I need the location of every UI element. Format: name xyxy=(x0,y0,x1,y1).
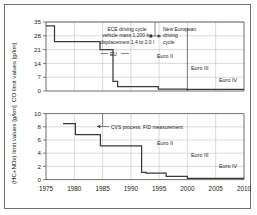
co-euro4-label: Euro IV xyxy=(219,77,237,83)
xtick-1985: 1985 xyxy=(95,185,110,192)
co-limit-chart: CO limit values [g/km] 35 28 21 14 7 0 xyxy=(5,5,252,115)
co-ytick-21: 21 xyxy=(34,46,41,53)
hcnox-euro2-label: Euro II xyxy=(157,140,173,146)
xtick-2000: 2000 xyxy=(180,185,195,192)
hcnox-limit-chart: (HC+NOx) limit values [g/km] 10 8 6 4 2 … xyxy=(5,104,252,210)
ece-annotation-line2: vehicle mass 1,200 kg xyxy=(102,32,152,38)
hcnox-ytick-4: 4 xyxy=(38,149,42,156)
hcnox-ytick-10: 10 xyxy=(34,110,41,117)
co-ytick-7: 7 xyxy=(38,73,42,80)
hcnox-y-axis-title: (HC+NOx) limit values [g/km] xyxy=(10,105,17,184)
xtick-1990: 1990 xyxy=(124,185,139,192)
co-ytick-0: 0 xyxy=(38,87,42,94)
co-ytick-14: 14 xyxy=(34,60,41,67)
hcnox-euro3-label: Euro III xyxy=(191,152,208,158)
ned-annotation-line1: New European xyxy=(163,26,196,32)
xtick-1995: 1995 xyxy=(152,185,167,192)
ned-annotation-line3: cycle xyxy=(163,39,175,45)
xtick-2010: 2010 xyxy=(237,185,252,192)
hcnox-ytick-6: 6 xyxy=(38,136,42,143)
hcnox-step-line xyxy=(63,124,244,179)
co-chart-svg: CO limit values [g/km] 35 28 21 14 7 0 xyxy=(5,5,252,115)
ece-annotation-line1: ECE driving cycle xyxy=(107,26,146,32)
co-y-axis-title: CO limit values [g/km] xyxy=(10,42,17,102)
hcnox-euro4-label: Euro IV xyxy=(219,163,237,169)
x-axis-ticks: 1975 1980 1985 1990 1995 2000 2005 2010 xyxy=(39,185,252,192)
figure-frame: CO limit values [g/km] 35 28 21 14 7 0 xyxy=(4,4,251,209)
co-euro2-label: Euro II xyxy=(157,53,173,59)
xtick-1975: 1975 xyxy=(39,185,54,192)
eu-annotation: EU xyxy=(101,51,130,57)
hcnox-ytick-2: 2 xyxy=(38,163,42,170)
eu-label: EU xyxy=(110,51,117,57)
co-euro3-label: Euro III xyxy=(191,65,208,71)
cvs-annotation: CVS process, FID measurement xyxy=(97,114,184,130)
co-ytick-28: 28 xyxy=(34,32,41,39)
xtick-1980: 1980 xyxy=(67,185,82,192)
ned-annotation-line2: driving xyxy=(163,32,178,38)
hcnox-tickmarks xyxy=(43,114,46,180)
co-tickmarks xyxy=(43,22,46,91)
xtick-2005: 2005 xyxy=(209,185,224,192)
co-ytick-35: 35 xyxy=(34,18,41,25)
hcnox-ytick-0: 0 xyxy=(38,176,42,183)
ece-annotation-line3: displacement 1.4 to 2.0 l xyxy=(100,39,154,45)
hcnox-chart-svg: (HC+NOx) limit values [g/km] 10 8 6 4 2 … xyxy=(5,104,252,210)
hcnox-ytick-8: 8 xyxy=(38,123,42,130)
cvs-label: CVS process, FID measurement xyxy=(111,124,184,130)
